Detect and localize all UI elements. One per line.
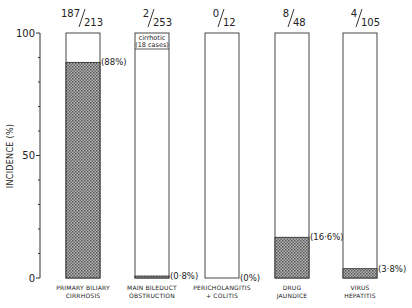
fraction-denominator: 12 (223, 17, 236, 28)
bar-group: (0·8%)2253MAIN BILEDUCTOBSTRUCTION (127, 8, 198, 299)
category-label: VIRUS (350, 284, 369, 291)
bar-group: (0%)012PERICHOLANGITIS+ COLITIS (193, 8, 260, 299)
incidence-bar-chart: 050100 INCIDENCE (%) (88%)187213PRIMARY … (0, 0, 412, 308)
y-tick-label: 100 (16, 28, 35, 39)
bar-outline (205, 33, 239, 278)
bar-group: (88%)187213PRIMARY BILIARYCIRRHOSIS (56, 8, 126, 299)
fraction-numerator: 8 (283, 8, 289, 19)
category-label: PERICHOLANGITIS (193, 284, 251, 291)
y-tick-label: 0 (29, 273, 35, 284)
bar-value-label: (88%) (101, 57, 127, 67)
fraction-denominator: 105 (361, 17, 380, 28)
category-label: JAUNDICE (276, 292, 308, 300)
annotation-text: (18 cases) (135, 41, 169, 49)
category-label: + COLITIS (206, 292, 238, 299)
bar-value-label: (16·6%) (310, 232, 344, 242)
category-label: OBSTRUCTION (129, 292, 175, 299)
bar-outline (343, 33, 377, 278)
category-label: CIRRHOSIS (66, 292, 101, 299)
bar-value-label: (0·8%) (170, 271, 198, 281)
category-label: MAIN BILEDUCT (127, 284, 177, 291)
category-label: PRIMARY BILIARY (56, 284, 110, 291)
bars-group: (88%)187213PRIMARY BILIARYCIRRHOSIS(0·8%… (56, 8, 406, 300)
category-label: HEPATITIS (344, 292, 376, 299)
fraction-numerator: 4 (351, 8, 357, 19)
fraction-denominator: 213 (84, 17, 103, 28)
bar-annotation: cirrhotic(18 cases) (135, 34, 169, 49)
bar-fill (135, 276, 169, 278)
bar-value-label: (0%) (240, 273, 260, 283)
category-label: DRUG (283, 284, 302, 291)
bar-value-label: (3·8%) (378, 264, 406, 274)
fraction-numerator: 2 (143, 8, 149, 19)
y-axis: 050100 (16, 28, 40, 284)
y-tick-label: 50 (22, 150, 35, 161)
y-axis-label: INCIDENCE (%) (6, 124, 15, 188)
bar-group: (3·8%)4105VIRUSHEPATITIS (343, 8, 406, 299)
fraction-denominator: 48 (293, 17, 306, 28)
fraction-numerator: 187 (61, 8, 80, 19)
bar-fill (66, 62, 100, 278)
fraction-denominator: 253 (153, 17, 172, 28)
bar-fill (343, 269, 377, 278)
bar-fill (275, 237, 309, 278)
bar-group: (16·6%)848DRUGJAUNDICE (275, 8, 344, 300)
bar-outline (135, 33, 169, 278)
fraction-numerator: 0 (213, 8, 219, 19)
